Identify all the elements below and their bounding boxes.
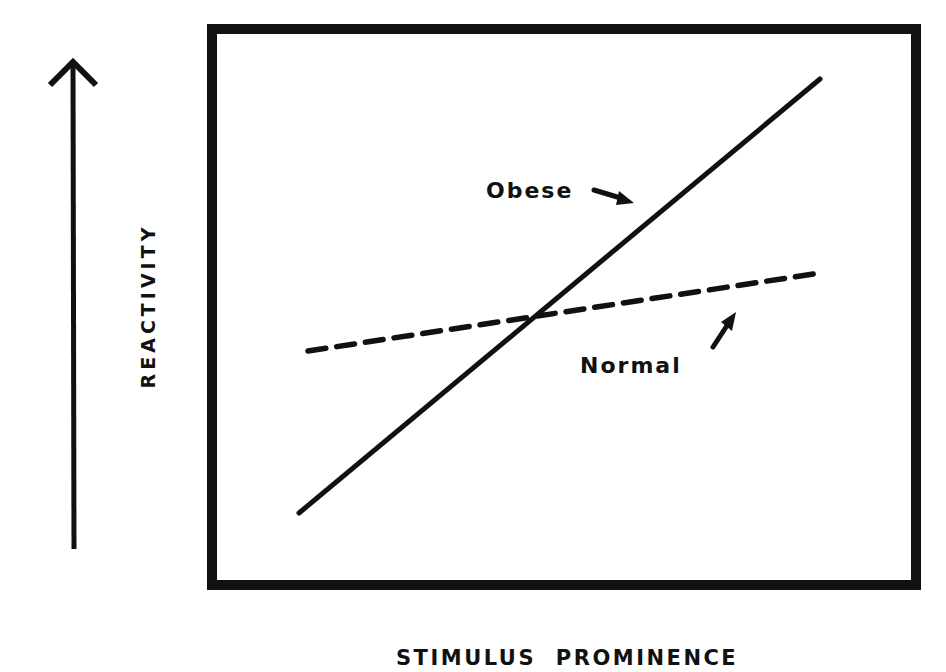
y-axis-label: REACTIVITY — [137, 224, 159, 389]
obese-line — [299, 79, 820, 513]
plot-frame — [212, 29, 916, 585]
obese-label: Obese — [486, 178, 573, 203]
normal-pointer-arrow — [713, 312, 736, 347]
reactivity-axis-arrow — [50, 62, 96, 549]
normal-label: Normal — [580, 353, 682, 378]
obese-pointer-arrow — [594, 190, 634, 205]
x-axis-label: STIMULUS PROMINENCE — [396, 646, 738, 670]
normal-line — [308, 273, 820, 351]
